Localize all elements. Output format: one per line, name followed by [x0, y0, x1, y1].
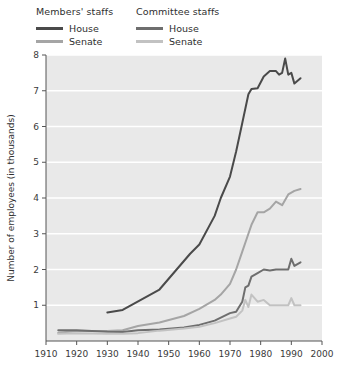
x-tick-label: 1950: [157, 349, 180, 359]
legend-item-members-house: House: [36, 22, 113, 35]
x-tick-label: 1910: [35, 349, 58, 359]
staff-growth-chart: Members' staffs House Senate Committee s…: [0, 0, 339, 370]
chart-svg: 1234567819101920193019401950196019701980…: [0, 46, 339, 370]
legend-group-members-staffs: Members' staffs House Senate: [36, 6, 113, 48]
x-tick-label: 1990: [280, 349, 303, 359]
plot-area: 1234567819101920193019401950196019701980…: [0, 46, 339, 370]
x-tick-label: 1960: [188, 349, 211, 359]
legend-group-title: Committee staffs: [136, 6, 219, 17]
y-tick-label: 1: [33, 300, 39, 310]
legend-swatch-icon: [36, 27, 63, 30]
legend-group-title: Members' staffs: [36, 6, 113, 17]
y-axis-title: Number of employees (in thousands): [6, 114, 16, 281]
legend-item-label: House: [69, 23, 99, 34]
x-tick-label: 1920: [65, 349, 88, 359]
chart-legend: Members' staffs House Senate Committee s…: [0, 0, 339, 46]
legend-group-committee-staffs: Committee staffs House Senate: [136, 6, 219, 48]
x-tick-label: 1980: [249, 349, 272, 359]
x-tick-label: 1940: [127, 349, 150, 359]
legend-swatch-icon: [36, 40, 63, 43]
y-tick-label: 3: [33, 229, 39, 239]
y-tick-label: 8: [33, 50, 39, 60]
y-tick-label: 6: [33, 122, 39, 132]
legend-item-committee-house: House: [136, 22, 219, 35]
y-tick-label: 7: [33, 86, 39, 96]
y-tick-label: 2: [33, 265, 39, 275]
legend-swatch-icon: [136, 40, 163, 43]
y-tick-label: 4: [33, 193, 39, 203]
legend-swatch-icon: [136, 27, 163, 30]
legend-item-label: House: [169, 23, 199, 34]
x-tick-label: 2000: [311, 349, 334, 359]
y-tick-label: 5: [33, 157, 39, 167]
x-tick-label: 1970: [219, 349, 242, 359]
x-tick-label: 1930: [96, 349, 119, 359]
y-axis-title-text: Number of employees (in thousands): [6, 114, 16, 281]
